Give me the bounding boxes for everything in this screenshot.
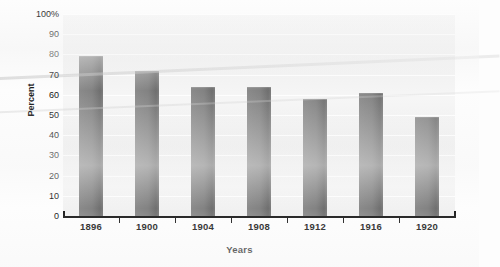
y-axis-tick-label: 40: [49, 130, 59, 140]
y-axis-tick-label: 100%: [36, 9, 59, 19]
bar: [191, 87, 215, 216]
x-axis-tick: [399, 216, 400, 223]
y-axis-tick-label: 90: [49, 29, 59, 39]
y-axis-tick-label: 80: [49, 49, 59, 59]
bar: [359, 93, 383, 216]
x-axis-tick-label: 1904: [175, 221, 231, 232]
x-axis-left-cap: [63, 211, 65, 218]
x-axis-tick-label: 1908: [231, 221, 287, 232]
bar: [79, 56, 103, 216]
bar: [247, 87, 271, 216]
x-axis-tick-label: 1896: [63, 221, 119, 232]
y-axis-tick-label: 30: [49, 150, 59, 160]
x-axis-line: [63, 216, 456, 218]
y-axis-tick-label: 10: [49, 191, 59, 201]
y-axis-tick-label: 20: [49, 171, 59, 181]
x-axis-tick: [287, 216, 288, 223]
x-axis-tick-label: 1900: [119, 221, 175, 232]
y-axis-tick-label: 60: [49, 90, 59, 100]
x-axis-right-cap: [454, 211, 456, 218]
y-axis-tick-labels: 0102030405060708090100%: [0, 0, 59, 267]
x-axis-tick-label: 1916: [343, 221, 399, 232]
bar: [303, 99, 327, 216]
x-axis-tick: [175, 216, 176, 223]
y-axis-title: Percent: [26, 83, 36, 116]
bar: [135, 71, 159, 216]
y-axis-tick-label: 0: [54, 211, 59, 221]
bar-series: [63, 14, 455, 216]
plot-area: [63, 14, 455, 216]
x-axis-tick: [343, 216, 344, 223]
x-axis-tick-label: 1920: [399, 221, 455, 232]
x-axis-title: Years: [0, 244, 479, 255]
x-axis-tick: [231, 216, 232, 223]
bar: [415, 117, 439, 216]
y-axis-tick-label: 70: [49, 70, 59, 80]
x-axis-tick-label: 1912: [287, 221, 343, 232]
y-axis-tick-label: 50: [49, 110, 59, 120]
x-axis-tick: [119, 216, 120, 223]
